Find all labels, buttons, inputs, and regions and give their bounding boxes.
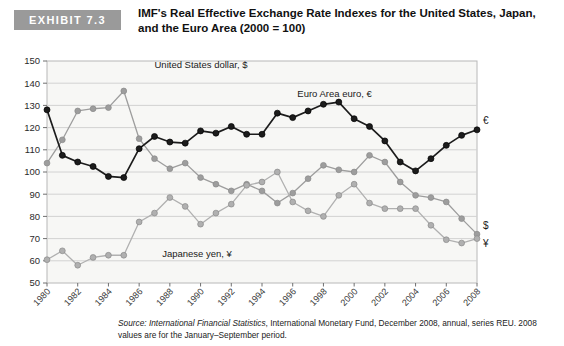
end-symbol-dollar: $ [483,220,489,231]
chart-container: 5060708090100110120130140150 19801982198… [0,46,564,346]
svg-text:110: 110 [25,144,40,155]
svg-text:150: 150 [24,55,40,66]
svg-text:140: 140 [24,78,40,89]
source-rest: , International Monetary Fund, December … [266,318,516,328]
svg-text:2002: 2002 [369,286,390,307]
svg-text:80: 80 [29,211,40,222]
svg-text:100: 100 [24,166,40,177]
svg-text:1998: 1998 [308,286,329,307]
svg-text:1990: 1990 [185,286,206,307]
svg-text:50: 50 [29,277,40,288]
svg-text:1996: 1996 [277,286,298,307]
svg-text:1994: 1994 [246,286,267,307]
svg-text:1982: 1982 [62,286,83,307]
x-axis-ticks: 1980198219841986198819901992199419961998… [31,283,482,308]
svg-text:1992: 1992 [216,286,237,307]
svg-text:1980: 1980 [31,286,52,307]
exhibit-badge: EXHIBIT 7.3 [14,10,121,30]
line-chart: 5060708090100110120130140150 19801982198… [0,46,564,346]
series-label-euro: Euro Area euro, € [297,88,372,99]
svg-text:2008: 2008 [461,286,482,307]
svg-text:1984: 1984 [93,286,114,307]
page-title: IMF's Real Effective Exchange Rate Index… [138,6,552,36]
svg-text:2006: 2006 [431,286,452,307]
exhibit-header: EXHIBIT 7.3 IMF's Real Effective Exchang… [0,0,564,46]
svg-text:60: 60 [29,255,40,266]
source-publication: International Financial Statistics [149,318,266,328]
svg-text:120: 120 [24,122,40,133]
end-symbol-yen: ¥ [482,238,489,249]
svg-text:2000: 2000 [338,286,359,307]
svg-text:70: 70 [29,233,40,244]
end-symbol-euro: € [483,115,489,126]
svg-text:90: 90 [29,189,40,200]
svg-text:1988: 1988 [154,286,175,307]
svg-text:130: 130 [24,100,40,111]
source-prefix: Source: [118,318,147,328]
source-note: Source: International Financial Statisti… [118,318,548,341]
svg-text:2004: 2004 [400,286,421,307]
series-label-dollar: United States dollar, $ [155,59,249,70]
series-label-yen: Japanese yen, ¥ [162,248,232,259]
y-axis-ticks: 5060708090100110120130140150 [24,55,47,288]
svg-text:1986: 1986 [123,286,144,307]
